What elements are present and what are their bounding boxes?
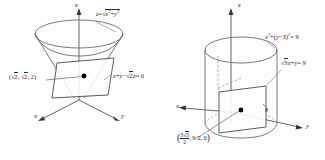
left-z-axis-label: z [75, 2, 78, 9]
left-plane-equation: x+y−√2z= 0 [113, 73, 144, 80]
right-plane-leader [265, 70, 281, 87]
right-plane-equation: √3x+y= 9 [281, 60, 306, 67]
point-dot-left [82, 74, 87, 79]
right-y-axis-label: y [306, 123, 309, 130]
cylinder-surface-equation: x2+(y−3)2= 9 [265, 33, 299, 41]
cone-surface-equation: z=√x2+y2 [96, 10, 120, 18]
right-z-axis-label: z [238, 2, 241, 9]
right-x-axis-label: x [176, 103, 179, 110]
right-point-label: (3√32, 9/2, 0) [177, 132, 210, 146]
point-fraction: 3√32 [180, 132, 189, 146]
left-surface-leader [96, 22, 116, 32]
left-y-axis-label: y [121, 113, 124, 120]
cone-eq-radicand: x2+y2 [105, 9, 120, 17]
point-dot-right [239, 108, 244, 113]
left-x-axis-label: x [34, 113, 37, 120]
cylinder-top-ellipse [205, 37, 277, 63]
right-angle-label: θ [265, 107, 268, 113]
left-y-axis [79, 100, 120, 121]
left-point-label: (√2, √2, 2) [9, 74, 36, 81]
left-x-axis [38, 100, 79, 121]
right-hidden-construction [218, 56, 241, 95]
right-paren: ) [207, 133, 210, 143]
figure-page: z x y z=√x2+y2 x+y−√2z= 0 (√2, √2, 2) [0, 0, 325, 160]
